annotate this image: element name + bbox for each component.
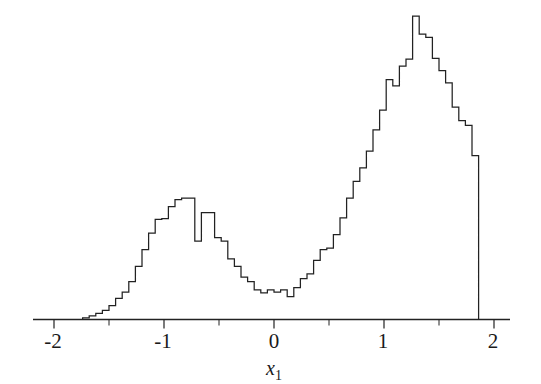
x-axis-title-subscript: 1 — [275, 368, 282, 383]
xtick-label--2: -2 — [44, 329, 62, 353]
histogram-step-outline — [83, 16, 479, 320]
xtick-label-1: 1 — [378, 329, 389, 353]
histogram-figure: -2 -1 0 1 2 x1 — [0, 0, 541, 384]
xtick-label--1: -1 — [154, 329, 172, 353]
histogram-plot: -2 -1 0 1 2 x1 — [0, 0, 541, 384]
x-axis-title: x1 — [265, 357, 282, 383]
x-axis-title-symbol: x — [265, 357, 275, 379]
xtick-label-2: 2 — [488, 329, 499, 353]
xtick-label-0: 0 — [269, 329, 280, 353]
x-axis-ticks — [54, 320, 494, 329]
